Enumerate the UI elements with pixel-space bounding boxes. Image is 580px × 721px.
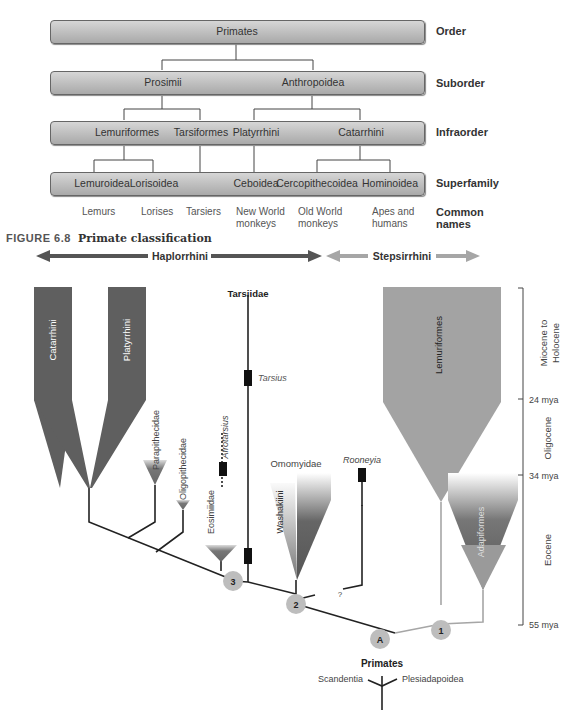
rank-common-names: Common names — [436, 206, 481, 230]
common-name-apes-and-humans: Apes and humans — [372, 206, 417, 230]
taxon-lemuroidea: Lemuroidea — [74, 177, 129, 189]
label-oligopithecidae: Oligopithecidae — [178, 438, 188, 500]
figure-number: FIGURE 6.8 — [6, 232, 71, 244]
svg-text:1: 1 — [438, 626, 443, 636]
epoch-eocene: Eocene — [542, 534, 553, 566]
clade-oligopithecidae — [176, 500, 190, 510]
taxon-lemuriformes: Lemuriformes — [95, 126, 159, 138]
infraorder-bar: Lemuriformes Tarsiformes Platyrrhini Cat… — [50, 121, 425, 145]
rank-order: Order — [436, 25, 466, 37]
timescale-axis — [518, 288, 523, 625]
svg-text:2: 2 — [293, 600, 298, 610]
arrowhead-left-icon — [36, 250, 50, 262]
phylogeny-diagram: Haplorrhini Stepsirrhini 24 mya 34 mya 5… — [0, 245, 580, 721]
arrowhead-left-icon — [326, 250, 340, 262]
branch-parapithecidae — [128, 485, 155, 538]
tick-24-mya: 24 mya — [529, 395, 559, 405]
label-washakiini: Washakiini — [275, 490, 285, 533]
superfamily-bar: Lemuroidea Lorisoidea Ceboidea Cercopith… — [50, 172, 425, 196]
label-adapiformes: Adapiformes — [476, 506, 486, 557]
node-2: 2 — [286, 594, 306, 614]
svg-text:3: 3 — [230, 577, 235, 587]
connector-catarrhini — [317, 146, 390, 172]
label-strepsirrhini: Stepsirrhini — [373, 250, 431, 262]
label-tarsiidae: Tarsiidae — [227, 288, 268, 299]
common-name-new-world-monkeys: New World monkeys — [236, 206, 286, 230]
branch-rooneyia-2 — [343, 505, 362, 589]
taxon-primates: Primates — [216, 25, 257, 37]
taxon-platyrrhini: Platyrrhini — [233, 126, 280, 138]
taxon-hominoidea: Hominoidea — [362, 177, 418, 189]
connector-lemuriformes — [94, 146, 153, 172]
haplorrhini-arrow: Haplorrhini — [36, 250, 322, 262]
order-bar: Primates — [50, 20, 425, 44]
clade-omomyidae — [297, 473, 331, 580]
fossil-rooneyia — [358, 468, 366, 482]
taxon-tarsiformes: Tarsiformes — [174, 126, 228, 138]
clade-platyrrhini-body — [90, 287, 146, 488]
node-3: 3 — [223, 571, 243, 591]
tick-34-mya: 34 mya — [529, 471, 559, 481]
branch-node2-to-A — [296, 604, 395, 633]
arrowhead-right-icon — [466, 250, 480, 262]
strepsirrhini-arrow: Stepsirrhini — [326, 250, 480, 262]
taxon-ceboidea: Ceboidea — [234, 177, 279, 189]
epoch-oligocene: Oligocene — [542, 417, 553, 460]
common-name-old-world-monkeys: Old World monkeys — [298, 206, 348, 230]
taxon-lorisoidea: Lorisoidea — [130, 177, 178, 189]
label-lemuriformes: Lemuriformes — [433, 316, 444, 374]
svg-text:A: A — [377, 635, 384, 645]
connector-prosimii — [124, 96, 200, 120]
label-omomyidae: Omomyidae — [270, 458, 321, 469]
figure-caption: FIGURE 6.8 Primate classification — [6, 232, 212, 245]
fossil-tarsiid-eocene — [244, 548, 252, 564]
common-name-tarsiers: Tarsiers — [186, 206, 221, 218]
node-A: A — [370, 629, 390, 649]
label-catarrhini: Catarrhini — [47, 319, 58, 360]
label-rooneyia: Rooneyia — [343, 455, 381, 465]
rank-superfamily: Superfamily — [436, 177, 499, 189]
figure-title: Primate classification — [78, 232, 212, 245]
branch-adapiformes — [441, 590, 483, 624]
label-primates-root: Primates — [361, 658, 404, 669]
suborder-bar: Prosimii Anthropoidea — [50, 71, 425, 95]
connector-anthropoidea — [254, 96, 360, 120]
label-eosimiidae: Eosimiidae — [206, 490, 216, 534]
fossil-tarsius — [244, 370, 252, 386]
clade-eosimiidae — [205, 545, 237, 562]
connector-order — [162, 44, 313, 70]
branch-oligopithecidae — [156, 510, 183, 552]
node-1: 1 — [431, 620, 451, 640]
epoch-miocene-line2: Holocene — [550, 323, 561, 363]
rank-infraorder: Infraorder — [436, 126, 488, 138]
taxon-cercopithecoidea: Cercopithecoidea — [276, 177, 358, 189]
label-tarsius: Tarsius — [258, 373, 287, 383]
label-afrotarsius: Afrotarsius — [220, 415, 230, 460]
branch-rooneyia-1 — [303, 595, 315, 598]
arrowhead-right-icon — [308, 250, 322, 262]
label-plesiadapoidea: Plesiadapoidea — [402, 674, 464, 684]
label-platyrrhini: Platyrrhini — [121, 319, 132, 361]
epoch-miocene-line1: Miocene to — [538, 320, 549, 366]
taxon-prosimii: Prosimii — [144, 76, 181, 88]
common-name-lorises: Lorises — [141, 206, 173, 218]
root-branches — [368, 676, 397, 710]
rank-suborder: Suborder — [436, 77, 485, 89]
common-name-lemurs: Lemurs — [82, 206, 115, 218]
label-scandentia: Scandentia — [318, 674, 363, 684]
fossil-afrotarsius — [219, 462, 227, 476]
timescale: 24 mya 34 mya 55 mya Miocene to Holocene… — [518, 288, 561, 630]
label-parapithecidae: Parapithecidae — [151, 410, 161, 470]
label-haplorrhini: Haplorrhini — [152, 250, 208, 262]
taxon-catarrhini: Catarrhini — [338, 126, 384, 138]
taxon-anthropoidea: Anthropoidea — [282, 76, 344, 88]
label-uncertain: ? — [338, 590, 343, 599]
tick-55-mya: 55 mya — [529, 620, 559, 630]
